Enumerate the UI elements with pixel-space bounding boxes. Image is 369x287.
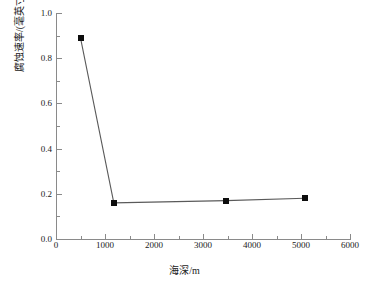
chart-page: 0.00.20.40.60.81.0 010002000300040005000… [0, 0, 369, 287]
y-tick-label: 0.4 [41, 144, 52, 154]
x-tick-major: 6000 [350, 234, 351, 239]
x-tick-label: 6000 [341, 240, 359, 250]
x-tick-label: 1000 [96, 240, 114, 250]
y-tick-label: 0.8 [41, 53, 52, 63]
x-tick-label: 0 [54, 240, 59, 250]
x-tick-label: 5000 [292, 240, 310, 250]
x-tick-label: 2000 [145, 240, 163, 250]
plot-area: 0.00.20.40.60.81.0 010002000300040005000… [56, 13, 350, 239]
y-tick-label: 0.6 [41, 98, 52, 108]
data-point-marker [111, 200, 117, 206]
data-point-marker [223, 198, 229, 204]
y-tick-label: 0.2 [41, 189, 52, 199]
y-tick-label: 0.0 [41, 234, 52, 244]
x-axis-title: 海深/m [0, 262, 369, 277]
x-tick-label: 3000 [194, 240, 212, 250]
series-line [56, 13, 350, 240]
y-tick-label: 1.0 [41, 8, 52, 18]
data-point-marker [78, 35, 84, 41]
y-axis-title: 腐蚀速率/(毫英寸/年) [11, 0, 26, 72]
data-point-marker [302, 195, 308, 201]
x-tick-label: 4000 [243, 240, 261, 250]
